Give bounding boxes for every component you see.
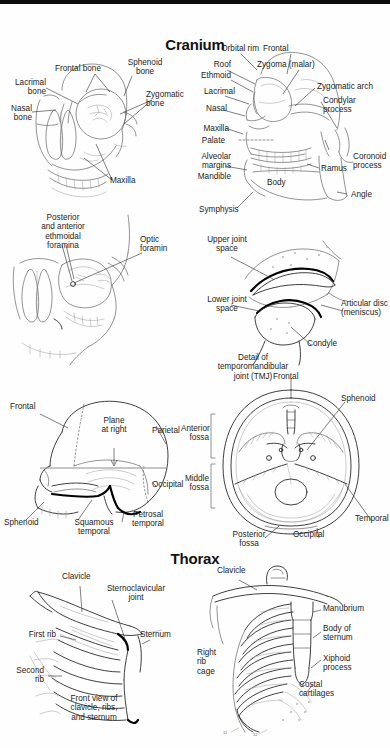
label-squamous-temporal: Squamous temporal (66, 518, 122, 537)
label-sphenoid-bone: Sphenoid bone (118, 58, 172, 77)
panel-skull-anterior: Frontal bone Sphenoid bone Lacrimal bone… (0, 52, 195, 202)
label-ethmoidal-foramina: Posterior and anterior ethmoidal foramin… (22, 213, 104, 251)
rib-number-12: 12 (253, 732, 258, 737)
label-roof: Roof (193, 60, 231, 69)
label-coronoid-process: Coronoid process (353, 152, 390, 171)
label-frontal-base: Frontal (273, 372, 317, 381)
label-condylar-process: Condylar process (323, 96, 379, 115)
label-frontal-bone: Frontal bone (40, 64, 116, 73)
panel-tmj-detail: Upper joint space Lower joint space Arti… (195, 235, 390, 365)
label-clavicle-front: Clavicle (62, 572, 110, 581)
label-lacrimal: Lacrimal (193, 87, 235, 96)
panel-orbit-oblique: Posterior and anterior ethmoidal foramin… (0, 215, 195, 365)
label-maxilla-lateral: Maxilla (193, 124, 229, 133)
label-ethmoid: Ethmoid (193, 71, 231, 80)
label-plane-at-right: Plane at right (86, 416, 142, 435)
label-angle: Angle (351, 190, 385, 199)
label-clavicle-ribcage: Clavicle (217, 566, 263, 575)
label-sphenoid-lateral: Sphenoid (4, 518, 52, 527)
label-ramus: Ramus (321, 164, 355, 173)
label-costal-cartilages: Costal cartilages (299, 680, 349, 699)
label-anterior-fossa: Anterior fossa (181, 424, 209, 443)
label-manubrium: Manubrium (323, 604, 379, 613)
panel-skull-base: Frontal Sphenoid Anterior fossa Middle f… (195, 380, 390, 545)
label-lower-joint-space: Lower joint space (195, 295, 259, 314)
label-alveolar-margins: Alveolar margins (193, 152, 231, 171)
label-zygomatic-bone: Zygomatic bone (146, 90, 196, 109)
label-lacrimal-bone: Lacrimal bone (0, 78, 46, 97)
label-optic-foramen: Optic foramin (140, 235, 190, 254)
label-upper-joint-space: Upper joint space (195, 235, 259, 254)
label-mandible: Mandible (193, 172, 231, 181)
label-sternoclavicular-joint: Sternoclavicular joint (96, 584, 176, 603)
panel-clavicle-sternum: Clavicle Sternoclavicular joint First ri… (0, 568, 195, 748)
label-middle-fossa: Middle fossa (181, 474, 209, 493)
rib-number-11: 11 (223, 730, 228, 735)
label-zygomatic-arch: Zygomatic arch (317, 82, 389, 91)
label-body: Body (267, 178, 301, 187)
label-occipital-base: Occipital (293, 530, 341, 539)
anatomy-reference-page: Cranium (0, 0, 390, 748)
caption-clavicle-sternum: Front view of clavicle, ribs, and sternu… (48, 694, 140, 722)
label-body-of-sternum: Body of sternum (323, 624, 369, 643)
panel-rib-cage: 11 12 Clavicle Manubrium Body of sternum… (195, 562, 390, 748)
label-frontal-lateral: Frontal (263, 44, 307, 53)
label-petrosal-temporal: Petrosal temporal (122, 510, 174, 529)
label-orbital-rim: Orbital rim (193, 44, 259, 53)
label-condyle: Condyle (307, 339, 347, 348)
label-frontal-plane-view: Frontal (10, 402, 60, 411)
label-symphysis: Symphysis (199, 205, 255, 214)
label-nasal: Nasal (193, 104, 227, 113)
top-black-bar (0, 0, 390, 4)
label-palate: Palate (193, 136, 225, 145)
label-xiphoid-process: Xiphoid process (323, 654, 367, 673)
label-sphenoid-base: Sphenoid (341, 394, 387, 403)
label-sternum: Sternum (140, 630, 186, 639)
label-nasal-bone: Nasal bone (0, 104, 32, 123)
label-right-rib-cage: Right rib cage (197, 648, 229, 676)
label-first-rib: First rib (0, 630, 56, 639)
label-posterior-fossa: Posterior fossa (223, 530, 275, 549)
label-maxilla: Maxilla (110, 176, 156, 185)
panel-skull-lateral-plane: Frontal Plane at right Parietal Occipita… (0, 390, 195, 540)
label-temporal-base: Temporal (355, 514, 390, 523)
label-articular-disc: Articular disc (meniscus) (341, 299, 390, 318)
label-zygoma-malar: Zygoma (malar) (257, 60, 347, 69)
label-second-rib: Second rib (0, 666, 44, 685)
panel-skull-lateral: Orbital rim Frontal Roof Zygoma (malar) … (195, 40, 390, 230)
